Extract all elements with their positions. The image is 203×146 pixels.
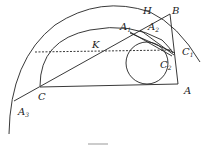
geometry-diagram: H B A1 A2 K C1 C2 A C A3 [0, 0, 203, 146]
label-c1: C1 [182, 46, 193, 58]
label-c: C [38, 91, 46, 102]
label-a: A [183, 85, 191, 96]
diagram-canvas: H B A1 A2 K C1 C2 A C A3 [0, 0, 203, 146]
label-c2: C2 [160, 59, 172, 71]
label-a1: A1 [119, 21, 131, 33]
point-labels: H B A1 A2 K C1 C2 A C A3 [17, 5, 193, 118]
label-b: B [171, 5, 179, 16]
line-a3-b [14, 14, 170, 101]
label-a2: A2 [147, 21, 159, 33]
label-a3: A3 [17, 106, 29, 118]
inner-arc [40, 28, 173, 86]
label-h: H [142, 5, 152, 16]
label-k: K [91, 39, 100, 50]
